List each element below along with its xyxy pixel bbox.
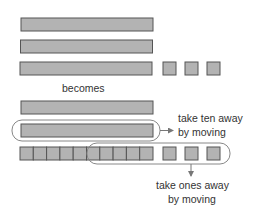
- one-unit: [185, 147, 198, 160]
- one-unit: [163, 62, 176, 75]
- ten-rod: [21, 40, 153, 53]
- one-unit: [207, 147, 220, 160]
- ten-rod: [21, 18, 153, 31]
- ten-rod: [21, 101, 153, 114]
- one-unit: [163, 147, 176, 160]
- ten-rod: [20, 62, 152, 75]
- take-ones-label-line1: take ones away: [156, 179, 229, 192]
- take-ten-label-line2: by moving: [178, 126, 226, 139]
- ten-rod-taken: [21, 124, 153, 137]
- becomes-label: becomes: [62, 82, 105, 95]
- take-ten-label-line1: take ten away: [178, 112, 243, 125]
- one-unit: [207, 62, 220, 75]
- one-unit: [185, 62, 198, 75]
- take-ones-label-line2: by moving: [168, 193, 216, 206]
